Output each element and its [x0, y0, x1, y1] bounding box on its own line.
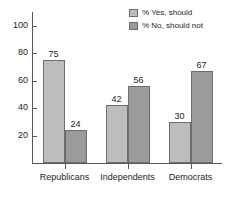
bar-democrats-yes: 30 [169, 122, 191, 163]
bar-value-republicans-no: 24 [70, 120, 80, 129]
y-tick-label-40: 40 [18, 103, 28, 112]
x-label-independents: Independents [100, 172, 155, 182]
bar-value-independents-no: 56 [133, 76, 143, 85]
bar-republicans-yes: 75 [43, 60, 65, 163]
bar-independents-no: 56 [128, 86, 150, 163]
bar-value-democrats-no: 67 [196, 61, 206, 70]
bar-independents-yes: 42 [106, 105, 128, 163]
bar-value-independents-yes: 42 [111, 95, 121, 104]
y-tick-label-20: 20 [18, 131, 28, 140]
bar-chart: % Yes, should % No, should not 100 80 60… [0, 0, 229, 202]
y-tick-label-80: 80 [18, 48, 28, 57]
plot-area: 75 24 42 56 30 67 [33, 12, 222, 163]
bar-value-republicans-yes: 75 [48, 50, 58, 59]
x-label-republicans: Republicans [40, 172, 90, 182]
bar-democrats-no: 67 [191, 71, 213, 163]
y-tick-label-60: 60 [18, 76, 28, 85]
y-tick-label-100: 100 [13, 21, 28, 30]
bar-group-democrats: 30 67 [169, 12, 213, 163]
bar-value-democrats-yes: 30 [174, 112, 184, 121]
x-tick-independents [128, 163, 129, 169]
x-label-democrats: Democrats [169, 172, 213, 182]
x-tick-democrats [191, 163, 192, 169]
bar-group-independents: 42 56 [106, 12, 150, 163]
bar-group-republicans: 75 24 [43, 12, 87, 163]
x-tick-republicans [65, 163, 66, 169]
bar-republicans-no: 24 [65, 130, 87, 163]
